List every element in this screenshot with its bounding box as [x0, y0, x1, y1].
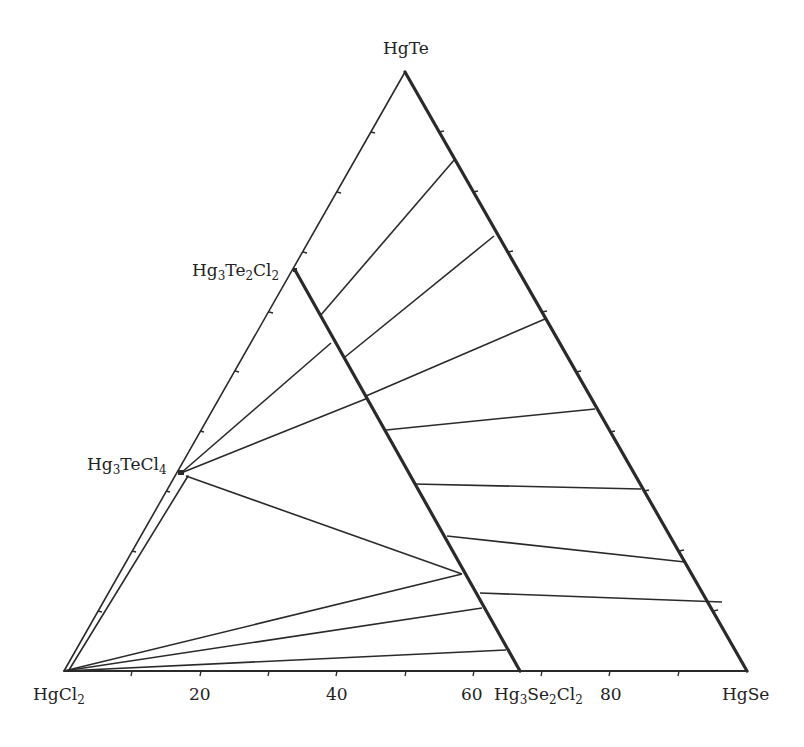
point-hg3te2cl2 [293, 268, 297, 272]
tie-lines [64, 159, 722, 671]
label-hg3se2cl2: Hg3Se2Cl2 [494, 684, 583, 707]
tie-line-hg3tecl4 [181, 343, 331, 473]
label-hgse: HgSe [722, 684, 769, 704]
tick-label-40: 40 [326, 684, 348, 704]
tie-line [480, 593, 722, 602]
tie-line [345, 236, 494, 357]
join-hg3te2cl2-hg3se2cl2 [295, 270, 520, 671]
tie-line [447, 536, 685, 562]
tie-line [366, 319, 545, 396]
point-hg3tecl4 [178, 470, 184, 475]
ternary-phase-diagram: HgTe Hg3Te2Cl2 Hg3TeCl4 HgCl2 20 40 60 H… [0, 0, 804, 747]
edge-hgcl2-hgte [64, 72, 405, 671]
tie-line-hgcl2 [64, 574, 462, 671]
tick-label-80: 80 [600, 684, 622, 704]
label-hgte: HgTe [383, 38, 429, 58]
tick-label-60: 60 [461, 684, 483, 704]
line-hgcl2-hg3tecl4 [69, 476, 188, 670]
label-hg3tecl4: Hg3TeCl4 [87, 454, 167, 477]
labels: HgTe Hg3Te2Cl2 Hg3TeCl4 HgCl2 20 40 60 H… [33, 38, 769, 707]
tie-line-hg3tecl4 [181, 398, 368, 473]
tick-label-20: 20 [189, 684, 211, 704]
tie-line [320, 159, 455, 316]
label-hg3te2cl2: Hg3Te2Cl2 [192, 260, 279, 283]
tie-line [414, 484, 641, 489]
triangle-edges [64, 72, 747, 671]
label-hgcl2: HgCl2 [33, 684, 85, 707]
tie-line [386, 409, 595, 430]
